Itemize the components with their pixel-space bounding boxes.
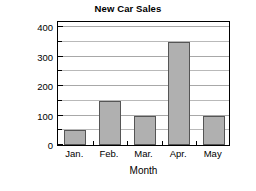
bar [134,116,156,145]
bar [203,116,225,145]
x-axis-tick-label: May [195,148,230,160]
y-axis-tick-label: 0 [25,141,53,150]
bar-chart-figure: New Car Sales Number of cars 01002003004… [0,0,256,191]
x-axis-tick-mark [196,141,197,145]
y-axis-tick-label: 100 [25,112,53,121]
x-axis-tick-labels: Jan.Feb.Mar.Apr.May [57,148,230,162]
plot-area [57,21,230,146]
bar-series [58,22,229,145]
x-axis-tick-mark [93,141,94,145]
bar [64,130,86,145]
x-axis-tick-label: Mar. [126,148,161,160]
x-axis-tick-mark [162,141,163,145]
bar [99,101,121,145]
y-axis-tick-label: 400 [25,23,53,32]
x-axis-tick-label: Apr. [161,148,196,160]
x-axis-label: Month [57,165,230,176]
bar [168,42,190,145]
x-axis-tick-mark [127,141,128,145]
y-axis-tick-label: 200 [25,82,53,91]
y-axis-tick-labels: 0100200300400 [22,0,53,191]
x-axis-tick-label: Jan. [57,148,92,160]
x-axis-tick-label: Feb. [92,148,127,160]
y-axis-tick-label: 300 [25,53,53,62]
